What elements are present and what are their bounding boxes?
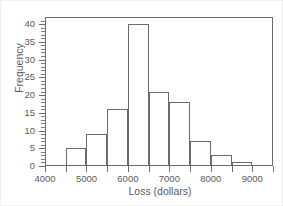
x-axis-tick-label: 4000 — [22, 173, 68, 184]
y-axis-tick-label: 15 — [3, 107, 35, 118]
x-axis-tick — [149, 166, 150, 172]
y-axis-tick-label: 5 — [3, 142, 35, 153]
x-axis-tick — [107, 166, 108, 172]
x-axis-tick — [190, 166, 191, 172]
histogram-bar — [232, 162, 253, 166]
x-axis-title: Loss (dollars) — [40, 185, 280, 197]
x-axis-tick — [211, 166, 212, 172]
histogram-figure: Frequency 0510152025303540 4000500060007… — [0, 0, 283, 206]
histogram-bar — [66, 148, 87, 166]
x-axis-tick — [169, 166, 170, 172]
plot-area — [45, 17, 273, 166]
histogram-bar — [86, 134, 107, 166]
x-axis-tick-label: 8000 — [188, 173, 234, 184]
x-axis-tick-label: 6000 — [105, 173, 151, 184]
histogram-bar — [149, 92, 170, 167]
x-axis-tick — [66, 166, 67, 172]
histogram-bar — [169, 102, 190, 166]
x-axis-tick-label: 5000 — [63, 173, 109, 184]
x-axis-tick — [232, 166, 233, 172]
y-axis-tick-label: 40 — [3, 18, 35, 29]
histogram-bar — [107, 109, 128, 166]
x-axis-tick-label: 7000 — [146, 173, 192, 184]
y-axis-tick-label: 30 — [3, 54, 35, 65]
x-axis-tick — [252, 166, 253, 172]
y-axis-tick-label: 35 — [3, 36, 35, 47]
histogram-bar — [128, 24, 149, 166]
x-axis-tick — [86, 166, 87, 172]
x-axis-tick — [128, 166, 129, 172]
y-axis-tick-label: 25 — [3, 71, 35, 82]
x-axis-tick — [45, 166, 46, 172]
y-axis-tick-label: 20 — [3, 89, 35, 100]
x-axis-tick-label: 9000 — [229, 173, 275, 184]
y-axis-tick-label: 10 — [3, 125, 35, 136]
y-axis-tick-label: 0 — [3, 160, 35, 171]
x-axis-tick — [273, 166, 274, 172]
histogram-bar — [190, 141, 211, 166]
histogram-bar — [211, 155, 232, 166]
